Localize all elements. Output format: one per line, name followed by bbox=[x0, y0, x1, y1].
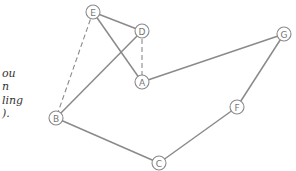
node-c: C bbox=[152, 156, 166, 170]
node-label: D bbox=[139, 27, 146, 37]
graph-diagram: EDABCFG bbox=[0, 0, 296, 171]
edge-a-g bbox=[142, 34, 284, 82]
node-label: A bbox=[139, 78, 146, 88]
edge-b-c bbox=[56, 118, 159, 163]
node-e: E bbox=[86, 5, 100, 19]
node-label: F bbox=[234, 103, 239, 113]
edge-d-b bbox=[56, 31, 142, 118]
edge-e-a bbox=[93, 12, 142, 82]
edge-g-f bbox=[237, 34, 284, 107]
edge-e-b bbox=[56, 12, 93, 118]
node-label: B bbox=[53, 114, 59, 124]
node-g: G bbox=[277, 27, 291, 41]
node-label: G bbox=[281, 30, 288, 40]
node-f: F bbox=[230, 100, 244, 114]
edge-f-c bbox=[159, 107, 237, 163]
node-b: B bbox=[49, 111, 63, 125]
node-d: D bbox=[135, 24, 149, 38]
node-a: A bbox=[135, 75, 149, 89]
node-label: C bbox=[156, 159, 162, 169]
graph-edges bbox=[56, 12, 284, 163]
node-label: E bbox=[90, 8, 96, 18]
